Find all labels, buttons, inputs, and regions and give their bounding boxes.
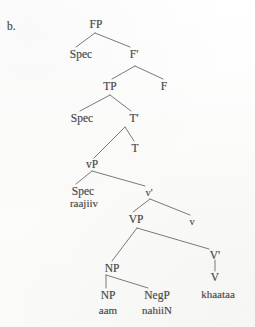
node-negp: NegP (144, 290, 170, 302)
terminal-aam: aam (99, 305, 117, 316)
node-fp: FP (90, 19, 103, 31)
example-enumerator: b. (7, 21, 16, 33)
branch-fbar-tp (112, 66, 135, 79)
node-np-upper: NP (105, 263, 120, 275)
branch-vbar-vpbig (133, 199, 150, 212)
node-v-bar-big: V' (210, 250, 220, 262)
node-v-big: V (211, 272, 219, 284)
node-f-bar: F' (130, 49, 138, 61)
branch-tp-tbar (110, 95, 131, 111)
branch-tbar-vp (94, 127, 125, 158)
branch-vp-spec (76, 171, 92, 184)
branch-fp-spec (76, 33, 95, 47)
terminal-khaataa: khaataa (201, 289, 235, 300)
branch-fbar-f (135, 66, 163, 79)
node-t: T (131, 143, 138, 155)
node-vp-big: VP (129, 214, 144, 226)
node-t-bar: T' (129, 113, 138, 125)
syntax-tree-figure: b. FP Spec F' TP F Spec T' T vP Spec raa… (0, 0, 255, 327)
node-v-small: v (189, 217, 194, 228)
node-spec-vp: Spec (72, 186, 94, 198)
branch-vpbig-vbarbig (137, 228, 209, 249)
node-spec-tp: Spec (71, 113, 93, 125)
node-np-lower: NP (101, 290, 116, 302)
terminal-nahiin: nahiiN (142, 305, 172, 316)
node-f: F (161, 81, 167, 93)
branch-vbar-vsmall (150, 199, 190, 215)
branch-vp-vbar (92, 171, 145, 186)
branch-tbar-t (125, 127, 134, 141)
node-v-bar-small: v' (145, 188, 152, 199)
node-spec-fp: Spec (70, 49, 92, 61)
branch-npupper-negp (106, 275, 148, 288)
branch-vpbig-np (112, 228, 137, 261)
branch-fp-fbar (95, 33, 130, 47)
branch-tp-spec (80, 95, 110, 111)
node-vp-small: vP (86, 159, 98, 171)
terminal-raajiiv: raajiiv (70, 198, 98, 209)
node-tp: TP (103, 81, 116, 93)
